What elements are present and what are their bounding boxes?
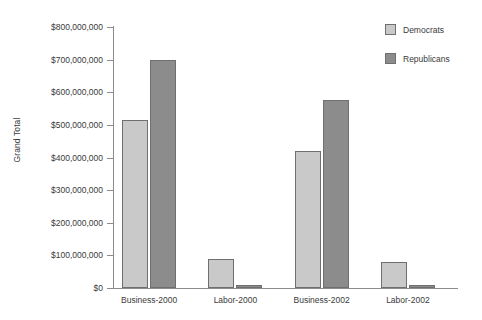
legend-swatch-democrats-icon <box>385 24 396 35</box>
y-axis-tick-label: $800,000,000 <box>0 27 103 28</box>
legend-label-democrats: Democrats <box>403 25 444 35</box>
chart-legend: Democrats Republicans <box>385 24 450 82</box>
y-axis-tick <box>107 288 113 289</box>
bar-labor-2002-republicans[interactable] <box>409 285 435 288</box>
bar-labor-2000-republicans[interactable] <box>236 285 262 288</box>
y-axis-tick-label: $200,000,000 <box>0 223 103 224</box>
y-axis-tick-label-text: $800,000,000 <box>51 22 103 32</box>
y-axis-tick-label: $500,000,000 <box>0 125 103 126</box>
x-axis-label-business-2000: Business-2000 <box>121 295 177 305</box>
bar-business-2002-democrats[interactable] <box>295 151 321 288</box>
x-axis-line <box>113 288 458 289</box>
y-axis-tick-label: $400,000,000 <box>0 158 103 159</box>
bar-business-2002-republicans[interactable] <box>323 100 349 288</box>
x-axis-label-labor-2002: Labor-2002 <box>386 295 429 305</box>
legend-swatch-republicans-icon <box>385 53 396 64</box>
legend-item-democrats[interactable]: Democrats <box>385 24 450 35</box>
x-axis-label-business-2002: Business-2002 <box>294 295 350 305</box>
bar-business-2000-democrats[interactable] <box>122 120 148 288</box>
y-axis-tick-label-text: $700,000,000 <box>51 55 103 65</box>
y-axis-tick-label: $700,000,000 <box>0 60 103 61</box>
y-axis-tick-label-text: $0 <box>94 283 103 293</box>
y-axis-tick-label: $300,000,000 <box>0 190 103 191</box>
x-axis-label-labor-2000: Labor-2000 <box>214 295 257 305</box>
y-axis-tick-label-text: $100,000,000 <box>51 250 103 260</box>
y-axis-tick-label-text: $200,000,000 <box>51 218 103 228</box>
y-axis-tick-label-text: $500,000,000 <box>51 120 103 130</box>
bar-labor-2002-democrats[interactable] <box>381 262 407 288</box>
y-axis-tick-label: $100,000,000 <box>0 255 103 256</box>
y-axis-title: Grand Total <box>12 90 22 190</box>
bar-chart: Grand Total $0$100,000,000$200,000,000$3… <box>0 0 482 320</box>
legend-item-republicans[interactable]: Republicans <box>385 53 450 64</box>
y-axis-tick-label-text: $600,000,000 <box>51 87 103 97</box>
y-axis-tick-label: $600,000,000 <box>0 92 103 93</box>
y-axis-tick-label-text: $300,000,000 <box>51 185 103 195</box>
bar-business-2000-republicans[interactable] <box>150 60 176 288</box>
bar-labor-2000-democrats[interactable] <box>208 259 234 288</box>
y-axis-tick-label-text: $400,000,000 <box>51 153 103 163</box>
legend-label-republicans: Republicans <box>403 54 450 64</box>
y-axis-tick-label: $0 <box>0 288 103 289</box>
